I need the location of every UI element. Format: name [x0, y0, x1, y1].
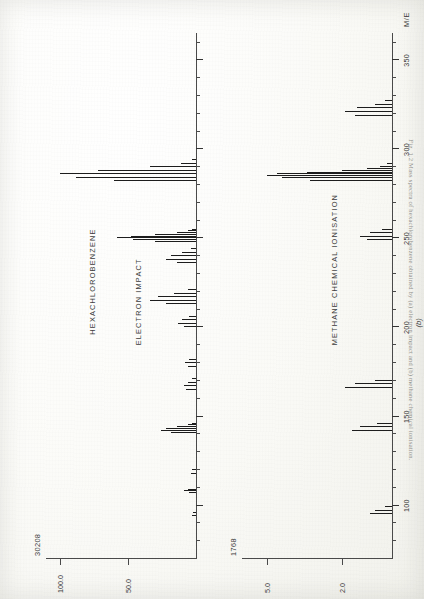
scan-vignette: [0, 0, 424, 599]
figure-caption: Fig. 1.2 Mass spectra of hexachlorobenze…: [400, 0, 422, 599]
figure-caption-text: Fig. 1.2 Mass spectra of hexachlorobenze…: [408, 139, 415, 460]
